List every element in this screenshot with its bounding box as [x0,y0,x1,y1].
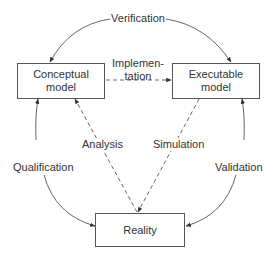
qualification-label: Qualification [13,161,73,174]
implementation-label: Implemen- tation [108,57,168,83]
verification-label: Verification [111,12,165,25]
conceptual-model-node: Conceptual model [17,63,105,99]
verification-arrow-left [50,19,110,62]
conceptual-model-label-line2: model [33,81,89,94]
simulation-arrow [138,99,199,212]
qualification-arrow-up [36,99,38,140]
implementation-label-line2: tation [108,70,168,83]
qualification-arrow-down [44,175,95,226]
executable-model-node: Executable model [172,63,260,99]
validation-arrow-down [186,175,236,226]
simulation-label: Simulation [153,138,203,151]
reality-node: Reality [95,213,185,247]
analysis-label: Analysis [82,138,122,151]
verification-arrow-right [166,19,231,62]
validation-label: Validation [215,161,261,174]
executable-model-label-line1: Executable [189,68,243,81]
implementation-label-line1: Implemen- [108,57,168,70]
reality-label: Reality [123,224,157,237]
analysis-arrow [75,99,137,212]
validation-arrow-up [242,99,244,140]
executable-model-label-line2: model [189,81,243,94]
conceptual-model-label-line1: Conceptual [33,68,89,81]
